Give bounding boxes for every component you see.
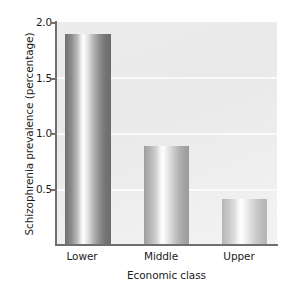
plot-area bbox=[56, 22, 277, 245]
y-tick-label-2.0: 2.0 bbox=[26, 17, 52, 27]
y-tick-label-1.0: 1.0 bbox=[26, 128, 52, 138]
x-tick-label-middle: Middle bbox=[119, 249, 203, 263]
y-axis-line bbox=[55, 21, 57, 246]
x-axis-line bbox=[55, 244, 278, 246]
bar-lower bbox=[65, 34, 111, 245]
y-tick-label-1.5: 1.5 bbox=[26, 73, 52, 83]
bar-chart-figure: Schizophrenia prevalence (percentage) 2.… bbox=[0, 0, 293, 288]
x-axis-title: Economic class bbox=[56, 268, 277, 282]
x-tick-label-upper: Upper bbox=[197, 249, 281, 263]
y-axis-tick-labels: 2.0 1.5 1.0 0.5 bbox=[24, 0, 52, 288]
x-tick-label-lower: Lower bbox=[40, 249, 124, 263]
bar-upper bbox=[222, 199, 267, 245]
y-tick-label-0.5: 0.5 bbox=[26, 184, 52, 194]
bar-middle bbox=[144, 146, 189, 245]
